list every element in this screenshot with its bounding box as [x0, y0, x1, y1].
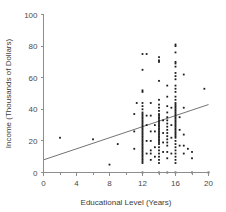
data-point [142, 53, 144, 55]
data-point [175, 104, 177, 106]
data-point [175, 61, 177, 63]
data-point [158, 113, 160, 115]
data-point [175, 107, 177, 109]
data-point [158, 140, 160, 142]
data-point [175, 132, 177, 134]
data-point [175, 75, 177, 77]
data-point [158, 121, 160, 123]
data-point [142, 146, 144, 148]
data-point [175, 159, 177, 161]
data-point [175, 153, 177, 155]
data-point [170, 124, 172, 126]
y-tick-label: 40 [29, 105, 38, 114]
data-point [175, 78, 177, 80]
data-point [154, 156, 156, 158]
axis-labels-layer: 020406080100048121620Educational Level (… [4, 11, 213, 208]
data-points-layer [59, 44, 209, 174]
data-point [158, 134, 160, 136]
data-point [175, 131, 177, 133]
y-tick-label: 60 [29, 74, 38, 83]
data-point [146, 115, 148, 117]
data-point [142, 132, 144, 134]
data-point [142, 143, 144, 145]
x-tick-label: 20 [204, 179, 213, 188]
data-point [158, 107, 160, 109]
data-point [142, 105, 144, 107]
data-point [158, 137, 160, 139]
data-point [175, 110, 177, 112]
data-point [175, 99, 177, 101]
data-point [158, 119, 160, 121]
y-tick-label: 0 [33, 169, 38, 178]
data-point [142, 153, 144, 155]
data-point [150, 159, 152, 161]
data-point [142, 124, 144, 126]
data-point [158, 124, 160, 126]
plot-canvas: 020406080100048121620Educational Level (… [0, 0, 226, 212]
data-point [142, 127, 144, 129]
data-point [183, 74, 185, 76]
data-point [142, 156, 144, 158]
x-tick-label: 16 [171, 179, 180, 188]
data-point [158, 104, 160, 106]
data-point [158, 153, 160, 155]
data-point [162, 142, 164, 144]
data-point [142, 115, 144, 117]
data-point [158, 61, 160, 63]
data-point [166, 96, 168, 98]
data-point [175, 115, 177, 117]
data-point [150, 115, 152, 117]
data-point [150, 131, 152, 133]
data-point [175, 91, 177, 93]
data-point [175, 135, 177, 137]
data-point [154, 131, 156, 133]
data-point [142, 113, 144, 115]
data-point [175, 134, 177, 136]
data-point [175, 137, 177, 139]
data-point [175, 127, 177, 129]
data-point [183, 153, 185, 155]
y-tick-label: 100 [24, 11, 38, 20]
data-point [109, 164, 111, 166]
data-point [175, 143, 177, 145]
data-point [158, 135, 160, 137]
data-point [117, 143, 119, 145]
data-point [166, 116, 168, 118]
data-point [142, 131, 144, 133]
data-point [175, 140, 177, 142]
data-point [183, 107, 185, 109]
data-point [158, 99, 160, 101]
data-point [175, 63, 177, 65]
data-point [142, 102, 144, 104]
data-point [158, 59, 160, 61]
data-point [142, 161, 144, 163]
data-point [158, 115, 160, 117]
data-point [146, 140, 148, 142]
data-point [175, 108, 177, 110]
data-point [158, 80, 160, 82]
data-point [142, 69, 144, 71]
data-point [175, 119, 177, 121]
data-point [175, 116, 177, 118]
data-point [92, 138, 94, 140]
data-point [158, 129, 160, 131]
x-tick-label: 8 [107, 179, 112, 188]
data-point [158, 132, 160, 134]
data-point [136, 102, 138, 104]
data-point [146, 153, 148, 155]
data-point [154, 146, 156, 148]
data-point [203, 88, 205, 90]
data-point [191, 157, 193, 159]
data-point [166, 85, 168, 87]
data-point [142, 134, 144, 136]
data-point [175, 72, 177, 74]
data-point [187, 148, 189, 150]
data-point [175, 52, 177, 54]
data-point [175, 124, 177, 126]
data-point [142, 162, 144, 164]
data-point [162, 119, 164, 121]
data-point [150, 153, 152, 155]
data-point [175, 129, 177, 131]
data-point [166, 126, 168, 128]
data-point [175, 105, 177, 107]
